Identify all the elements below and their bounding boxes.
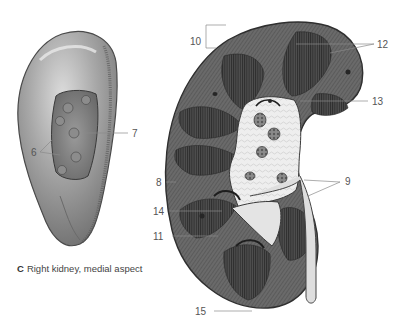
- kidney-coronal-section: [166, 22, 363, 308]
- label-11: 11: [153, 232, 163, 242]
- right-kidney-medial-aspect: [18, 32, 117, 246]
- label-10: 10: [190, 37, 201, 47]
- kidney-illustration: [0, 0, 403, 329]
- figure-caption: CRight kidney, medial aspect: [17, 263, 142, 274]
- label-15: 15: [195, 307, 206, 317]
- kidney-figure: 6 7 8 9 10 11 12 13 14 15 CRight kidney,…: [0, 0, 403, 329]
- label-8: 8: [156, 178, 162, 188]
- label-13: 13: [372, 97, 383, 107]
- label-12: 12: [377, 40, 388, 50]
- label-9: 9: [345, 177, 351, 187]
- panel-letter: C: [17, 263, 24, 274]
- label-6: 6: [31, 148, 37, 158]
- label-14: 14: [153, 207, 164, 217]
- caption-text: Right kidney, medial aspect: [27, 263, 142, 274]
- label-7: 7: [132, 129, 138, 139]
